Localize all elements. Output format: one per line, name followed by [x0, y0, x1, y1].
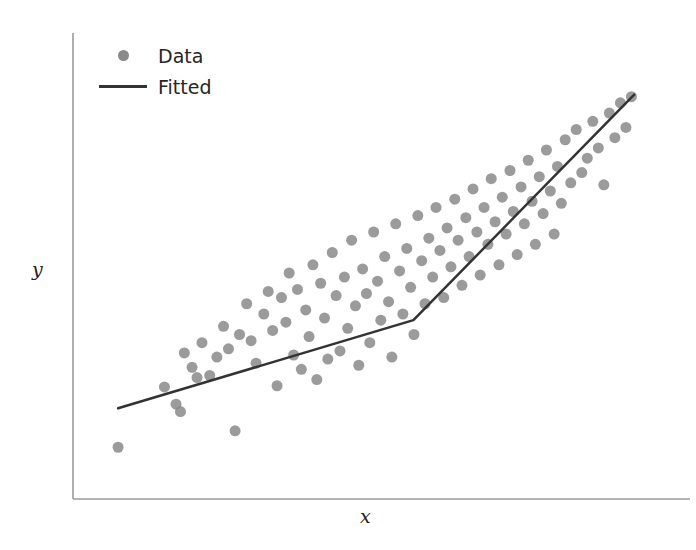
data-point: [296, 364, 307, 375]
data-point: [364, 337, 375, 348]
data-point: [497, 192, 508, 203]
data-point: [284, 268, 295, 279]
data-point: [211, 352, 222, 363]
y-axis-label: y: [32, 258, 43, 280]
data-point: [593, 142, 604, 153]
data-point: [315, 278, 326, 289]
data-point: [598, 179, 609, 190]
data-point: [342, 323, 353, 334]
data-point: [361, 288, 372, 299]
data-point: [223, 343, 234, 354]
data-point: [453, 235, 464, 246]
data-point: [468, 183, 479, 194]
data-point: [431, 202, 442, 213]
data-point: [490, 216, 501, 227]
data-point: [196, 337, 207, 348]
data-point: [471, 227, 482, 238]
data-point: [475, 270, 486, 281]
data-point: [609, 132, 620, 143]
data-point: [545, 186, 556, 197]
data-point: [300, 304, 311, 315]
data-point: [175, 406, 186, 417]
data-point: [615, 97, 626, 108]
data-point: [620, 122, 631, 133]
data-point: [246, 335, 257, 346]
data-point: [334, 345, 345, 356]
axis-spines: [73, 33, 690, 499]
legend-marker-line-icon: [96, 85, 150, 88]
legend-label-data: Data: [150, 45, 203, 67]
data-point: [346, 235, 357, 246]
data-point: [390, 218, 401, 229]
data-point: [565, 177, 576, 188]
data-point: [530, 239, 541, 250]
data-point: [319, 313, 330, 324]
data-point: [263, 286, 274, 297]
data-point: [394, 265, 405, 276]
data-point: [416, 255, 427, 266]
data-point: [368, 227, 379, 238]
data-point: [587, 116, 598, 127]
chart-figure: y x Data Fitted: [0, 0, 696, 550]
data-point: [556, 198, 567, 209]
data-point: [549, 229, 560, 240]
data-point: [519, 218, 530, 229]
scatter-points-layer: [113, 91, 637, 453]
data-point: [230, 425, 241, 436]
data-point: [350, 300, 361, 311]
data-point: [386, 352, 397, 363]
data-point: [408, 329, 419, 340]
data-point: [372, 276, 383, 287]
legend-marker-dot-icon: [96, 50, 150, 61]
data-point: [449, 194, 460, 205]
data-point: [311, 374, 322, 385]
data-point: [331, 290, 342, 301]
data-point: [307, 259, 318, 270]
data-point: [460, 212, 471, 223]
legend-entry-data: Data: [96, 40, 256, 71]
data-point: [456, 280, 467, 291]
data-point: [401, 243, 412, 254]
data-point: [534, 171, 545, 182]
data-point: [339, 272, 350, 283]
data-point: [267, 325, 278, 336]
data-point: [571, 124, 582, 135]
data-point: [187, 362, 198, 373]
data-point: [383, 296, 394, 307]
data-point: [538, 208, 549, 219]
data-point: [272, 380, 283, 391]
data-point: [576, 167, 587, 178]
data-point: [505, 165, 516, 176]
data-point: [353, 360, 364, 371]
data-point: [234, 329, 245, 340]
chart-legend: Data Fitted: [96, 40, 256, 102]
data-point: [512, 249, 523, 260]
legend-entry-fitted: Fitted: [96, 71, 256, 102]
fitted-line-layer: [118, 95, 634, 409]
data-point: [218, 321, 229, 332]
data-point: [375, 315, 386, 326]
data-point: [493, 259, 504, 270]
data-point: [192, 372, 203, 383]
data-point: [442, 222, 453, 233]
data-point: [427, 272, 438, 283]
data-point: [560, 134, 571, 145]
data-point: [304, 331, 315, 342]
data-point: [423, 233, 434, 244]
data-point: [486, 173, 497, 184]
data-point: [582, 153, 593, 164]
data-point: [327, 247, 338, 258]
data-point: [241, 298, 252, 309]
data-point: [292, 284, 303, 295]
data-point: [113, 442, 124, 453]
data-point: [397, 309, 408, 320]
fitted-line: [118, 95, 634, 409]
x-axis-label: x: [360, 505, 371, 527]
data-point: [276, 292, 287, 303]
data-point: [412, 210, 423, 221]
data-point: [445, 261, 456, 272]
legend-label-fitted: Fitted: [150, 76, 211, 98]
data-point: [159, 381, 170, 392]
data-point: [523, 155, 534, 166]
data-point: [379, 251, 390, 262]
